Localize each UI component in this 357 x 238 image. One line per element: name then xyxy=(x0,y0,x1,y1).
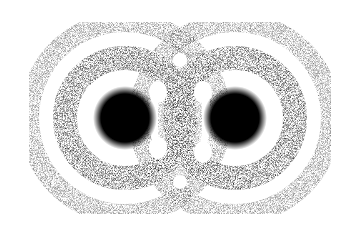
stipple-illustration xyxy=(0,0,357,238)
left-core xyxy=(93,86,157,150)
right-core xyxy=(203,86,267,150)
